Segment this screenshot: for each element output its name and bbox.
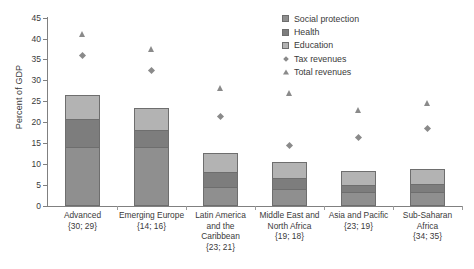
legend-item-social-protection[interactable]: Social protection bbox=[282, 12, 432, 25]
marker-total-revenues bbox=[79, 31, 85, 37]
y-tick-20: 20 bbox=[0, 118, 41, 126]
y-tick-10: 10 bbox=[0, 160, 41, 168]
legend-item-health[interactable]: Health bbox=[282, 25, 432, 38]
x-axis-label-line: and the bbox=[186, 221, 255, 232]
marker-tax-revenues bbox=[148, 67, 155, 74]
x-axis-label-line: {19; 18} bbox=[255, 231, 324, 242]
x-axis-label-line: {23; 21} bbox=[186, 242, 255, 253]
bar-stack bbox=[410, 205, 445, 206]
y-tick-label: 45 bbox=[21, 14, 41, 22]
y-tick-mark bbox=[43, 101, 47, 102]
y-tick-30: 30 bbox=[0, 76, 41, 84]
bar-segment-health bbox=[341, 185, 376, 192]
y-tick-mark bbox=[43, 18, 47, 19]
y-axis-line bbox=[47, 17, 48, 207]
y-tick-label: 15 bbox=[21, 139, 41, 147]
y-tick-mark bbox=[43, 122, 47, 123]
marker-total-revenues bbox=[286, 90, 292, 96]
marker-total-revenues bbox=[355, 107, 361, 113]
y-tick-5: 5 bbox=[0, 181, 41, 189]
y-tick-mark bbox=[43, 80, 47, 81]
marker-tax-revenues bbox=[79, 52, 86, 59]
y-tick-mark bbox=[43, 164, 47, 165]
x-axis-label-line: {34; 35} bbox=[393, 231, 462, 242]
legend-label: Tax revenues bbox=[294, 54, 346, 64]
bar-segment-health bbox=[410, 184, 445, 192]
marker-tax-revenues bbox=[424, 125, 431, 132]
bar-segment-health bbox=[65, 119, 100, 147]
y-tick-mark bbox=[43, 59, 47, 60]
x-axis-label-line: {23; 19} bbox=[324, 221, 393, 232]
y-tick-45: 45 bbox=[0, 14, 41, 22]
bar-segment-education bbox=[341, 171, 376, 185]
diamond-marker-icon bbox=[282, 55, 289, 62]
bar-segment-education bbox=[272, 162, 307, 178]
y-tick-label: 25 bbox=[21, 97, 41, 105]
x-axis-label-line: Caribbean bbox=[186, 231, 255, 242]
x-axis-label-line: {14; 16} bbox=[117, 221, 186, 232]
bar-stack bbox=[65, 205, 100, 206]
x-axis-label-line: Emerging Europe bbox=[117, 210, 186, 221]
x-axis-category-label: Asia and Pacific{23; 19} bbox=[324, 210, 393, 231]
x-axis-label-line: North Africa bbox=[255, 221, 324, 232]
x-tick-mark bbox=[462, 206, 463, 210]
legend-swatch-icon bbox=[282, 29, 289, 36]
marker-total-revenues bbox=[217, 85, 223, 91]
legend-item-total-revenues[interactable]: Total revenues bbox=[282, 66, 432, 79]
bar-segment-social-protection bbox=[272, 189, 307, 206]
bar-segment-social-protection bbox=[203, 187, 238, 206]
bar-stack bbox=[134, 205, 169, 206]
y-tick-label: 20 bbox=[21, 118, 41, 126]
legend-label: Education bbox=[294, 40, 333, 50]
marker-tax-revenues bbox=[286, 142, 293, 149]
marker-tax-revenues bbox=[355, 134, 362, 141]
y-tick-mark bbox=[43, 185, 47, 186]
bar-segment-education bbox=[65, 95, 100, 119]
bar-segment-social-protection bbox=[341, 192, 376, 206]
legend-item-education[interactable]: Education bbox=[282, 39, 432, 52]
y-tick-25: 25 bbox=[0, 97, 41, 105]
x-axis-category-label: Emerging Europe{14; 16} bbox=[117, 210, 186, 231]
y-tick-mark bbox=[43, 143, 47, 144]
legend-label: Social protection bbox=[294, 14, 359, 24]
y-tick-35: 35 bbox=[0, 55, 41, 63]
y-tick-0: 0 bbox=[0, 202, 41, 210]
bar-segment-social-protection bbox=[410, 192, 445, 206]
marker-total-revenues bbox=[424, 100, 430, 106]
legend-label: Total revenues bbox=[294, 67, 351, 77]
bar-stack bbox=[272, 205, 307, 206]
chart-legend: Social protectionHealthEducationTax reve… bbox=[282, 12, 432, 79]
bar-segment-education bbox=[203, 153, 238, 172]
legend-item-tax-revenues[interactable]: Tax revenues bbox=[282, 52, 432, 65]
y-tick-label: 30 bbox=[21, 76, 41, 84]
bar-stack bbox=[203, 205, 238, 206]
y-tick-label: 0 bbox=[21, 202, 41, 210]
triangle-marker-icon bbox=[282, 69, 289, 76]
x-axis-label-line: Advanced bbox=[48, 210, 117, 221]
x-axis-label-line: Latin America bbox=[186, 210, 255, 221]
bar-segment-health bbox=[134, 130, 169, 148]
bar-segment-social-protection bbox=[65, 147, 100, 206]
legend-label: Health bbox=[294, 27, 319, 37]
y-tick-40: 40 bbox=[0, 35, 41, 43]
bar-stack bbox=[341, 205, 376, 206]
bar-segment-social-protection bbox=[134, 147, 169, 206]
x-axis-category-label: Advanced{30; 29} bbox=[48, 210, 117, 231]
x-axis-label-line: Sub-Saharan bbox=[393, 210, 462, 221]
x-axis-category-label: Latin Americaand theCaribbean{23; 21} bbox=[186, 210, 255, 252]
marker-tax-revenues bbox=[217, 113, 224, 120]
y-tick-label: 35 bbox=[21, 55, 41, 63]
marker-total-revenues bbox=[148, 46, 154, 52]
y-tick-15: 15 bbox=[0, 139, 41, 147]
bar-segment-education bbox=[134, 108, 169, 129]
bar-segment-health bbox=[203, 172, 238, 187]
x-axis-label-line: Asia and Pacific bbox=[324, 210, 393, 221]
x-axis-label-line: Middle East and bbox=[255, 210, 324, 221]
legend-swatch-icon bbox=[282, 15, 289, 22]
chart-container: Percent of GDP 051015202530354045 Advanc… bbox=[0, 0, 474, 269]
y-tick-label: 5 bbox=[21, 181, 41, 189]
bar-segment-education bbox=[410, 169, 445, 184]
x-axis-category-label: Sub-SaharanAfrica{34; 35} bbox=[393, 210, 462, 242]
y-tick-label: 10 bbox=[21, 160, 41, 168]
x-axis-label-line: Africa bbox=[393, 221, 462, 232]
